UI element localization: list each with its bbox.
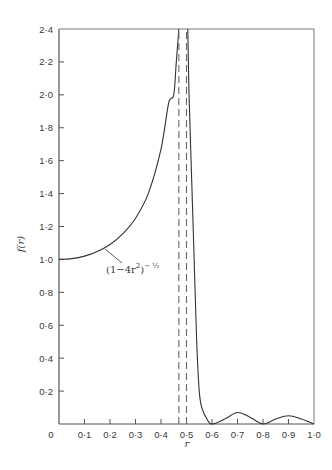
x-tick-label: 0 — [48, 429, 53, 440]
curve-line — [188, 29, 314, 424]
x-ticks: 00·10·20·30·40·50·60·70·80·91·0 — [48, 419, 321, 440]
y-tick-label: 1·2 — [39, 221, 53, 232]
annotation: (1−4r2)− ½ — [105, 249, 159, 275]
x-tick-label: 0·9 — [282, 429, 296, 440]
y-tick-label: 1·0 — [39, 254, 53, 265]
y-tick-label: 0·2 — [39, 386, 53, 397]
y-ticks: 0·20·40·60·81·01·21·41·61·82·02·22·4 — [39, 24, 64, 397]
x-tick-label: 0·8 — [256, 429, 270, 440]
x-tick-label: 0·7 — [231, 429, 245, 440]
x-tick-label: 0·4 — [154, 429, 168, 440]
y-tick-label: 2·0 — [39, 89, 53, 100]
y-tick-label: 0·6 — [39, 320, 53, 331]
x-tick-label: 0·1 — [78, 429, 92, 440]
curve-line — [59, 29, 179, 259]
annotation-leader — [105, 249, 122, 263]
y-tick-label: 1·8 — [39, 122, 53, 133]
x-tick-label: 1·0 — [307, 429, 321, 440]
series-group — [59, 29, 314, 424]
y-axis-title: f(r) — [15, 236, 26, 253]
x-tick-label: 0·3 — [129, 429, 143, 440]
y-tick-label: 2·4 — [39, 24, 53, 35]
y-tick-label: 1·6 — [39, 155, 53, 166]
y-tick-label: 2·2 — [39, 56, 53, 67]
y-tick-label: 0·4 — [39, 353, 53, 364]
x-tick-label: 0·2 — [103, 429, 117, 440]
axis-titles: f(r) r — [15, 236, 191, 449]
y-tick-label: 1·4 — [39, 188, 53, 199]
annotation-label: (1−4r2)− ½ — [106, 262, 159, 275]
y-tick-label: 0·8 — [39, 287, 53, 298]
x-tick-label: 0·6 — [205, 429, 219, 440]
chart: 0·20·40·60·81·01·21·41·61·82·02·22·4 00·… — [0, 0, 332, 470]
